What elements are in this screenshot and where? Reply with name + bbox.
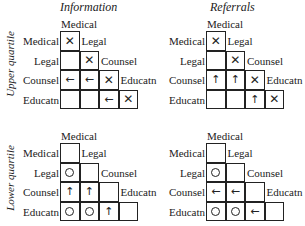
matrix-cell <box>226 90 246 110</box>
col-label: Medical <box>61 18 97 30</box>
matrix-cell <box>80 202 100 222</box>
cross-icon: ✕ <box>65 35 75 47</box>
cross-icon: ✕ <box>230 54 240 66</box>
row-label: Counsel <box>0 186 59 198</box>
matrix-cell <box>60 202 80 222</box>
arrow-left-icon: ← <box>211 186 220 197</box>
row-label: Legal <box>145 167 205 179</box>
matrix-cell: ↑ <box>206 70 226 90</box>
row-label: Educatn <box>145 206 205 218</box>
col-label: Counsel <box>247 55 283 67</box>
matrix-cell: ← <box>245 202 265 222</box>
circle-icon <box>211 207 220 216</box>
matrix-cell <box>226 163 246 183</box>
matrix-cell <box>206 163 226 183</box>
col-label: Educatn <box>267 186 303 198</box>
row-label: Educatn <box>145 94 205 106</box>
circle-icon <box>211 168 220 177</box>
cross-icon: ✕ <box>123 93 133 105</box>
matrix-cell: ✕ <box>265 90 285 110</box>
cross-icon: ✕ <box>211 35 221 47</box>
circle-icon <box>65 168 74 177</box>
cross-icon: ✕ <box>269 93 279 105</box>
col-label: Medical <box>61 130 97 142</box>
col-label: Counsel <box>101 55 137 67</box>
column-title-information: Information <box>60 0 117 15</box>
matrix-cell: ← <box>80 70 100 90</box>
row-label: Counsel <box>145 74 205 86</box>
circle-icon <box>65 207 74 216</box>
col-label: Counsel <box>247 167 283 179</box>
matrix-cell <box>60 163 80 183</box>
arrow-left-icon: ← <box>250 206 259 217</box>
matrix-cell <box>206 51 226 71</box>
matrix-cell <box>119 202 139 222</box>
matrix-cell <box>60 143 80 163</box>
matrix-cell <box>60 90 80 110</box>
col-label: Legal <box>82 147 107 159</box>
matrix-cell: ✕ <box>226 51 246 71</box>
matrix-cell <box>206 202 226 222</box>
col-label: Educatn <box>267 74 303 86</box>
matrix-cell <box>265 202 285 222</box>
row-label: Counsel <box>145 186 205 198</box>
cross-icon: ✕ <box>84 54 94 66</box>
row-label: Legal <box>145 55 205 67</box>
matrix-cell <box>206 143 226 163</box>
arrow-up-icon: ↑ <box>211 74 220 85</box>
col-label: Legal <box>82 35 107 47</box>
col-label: Medical <box>207 130 243 142</box>
row-label: Medical <box>0 35 59 47</box>
matrix-cell <box>80 90 100 110</box>
row-label: Counsel <box>0 74 59 86</box>
arrow-up-icon: ↑ <box>85 186 94 197</box>
matrix-cell: ✕ <box>119 90 139 110</box>
matrix-cell: ✕ <box>60 31 80 51</box>
matrix-cell: ✕ <box>206 31 226 51</box>
arrow-up-icon: ↑ <box>104 206 113 217</box>
col-label: Medical <box>207 18 243 30</box>
matrix-cell: ← <box>226 182 246 202</box>
matrix-cell: ✕ <box>80 51 100 71</box>
matrix-cell <box>60 51 80 71</box>
matrix-cell: ✕ <box>99 70 119 90</box>
row-label: Medical <box>145 35 205 47</box>
matrix-cell: ← <box>60 70 80 90</box>
matrix-cell <box>245 182 265 202</box>
matrix-cell <box>206 90 226 110</box>
circle-icon <box>231 207 240 216</box>
matrix-cell: ↑ <box>99 202 119 222</box>
col-label: Legal <box>228 147 253 159</box>
col-label: Counsel <box>101 167 137 179</box>
row-label: Medical <box>0 147 59 159</box>
matrix-cell <box>80 163 100 183</box>
cross-icon: ✕ <box>250 74 260 86</box>
row-label: Educatn <box>0 206 59 218</box>
matrix-cell: ↑ <box>60 182 80 202</box>
arrow-left-icon: ← <box>85 74 94 85</box>
arrow-up-icon: ↑ <box>231 74 240 85</box>
row-label: Educatn <box>0 94 59 106</box>
row-label: Medical <box>145 147 205 159</box>
circle-icon <box>85 207 94 216</box>
arrow-left-icon: ← <box>65 74 74 85</box>
arrow-up-icon: ↑ <box>250 94 259 105</box>
arrow-left-icon: ← <box>104 94 113 105</box>
matrix-cell: ↑ <box>226 70 246 90</box>
cross-icon: ✕ <box>104 74 114 86</box>
matrix-cell: ← <box>206 182 226 202</box>
matrix-cell: ↑ <box>245 90 265 110</box>
row-label: Legal <box>0 167 59 179</box>
matrix-cell: ↑ <box>80 182 100 202</box>
matrix-cell <box>99 182 119 202</box>
arrow-up-icon: ↑ <box>65 186 74 197</box>
row-label: Legal <box>0 55 59 67</box>
matrix-cell <box>226 202 246 222</box>
matrix-cell: ✕ <box>245 70 265 90</box>
arrow-left-icon: ← <box>231 186 240 197</box>
column-title-referrals: Referrals <box>210 0 255 15</box>
col-label: Legal <box>228 35 253 47</box>
matrix-cell: ← <box>99 90 119 110</box>
